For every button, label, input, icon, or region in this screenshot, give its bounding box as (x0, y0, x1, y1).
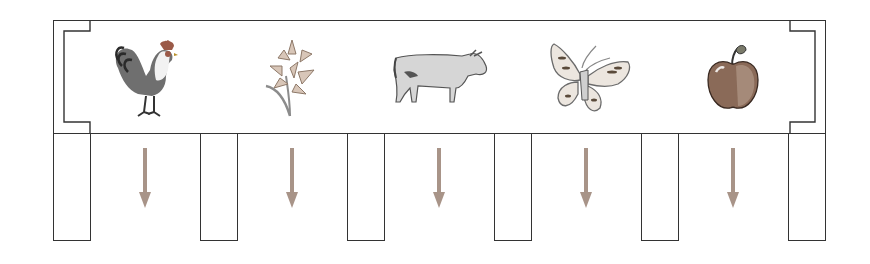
column-5 (641, 133, 679, 241)
down-arrow-icon (139, 148, 151, 208)
divider-line (53, 133, 826, 134)
down-arrow-icon (727, 148, 739, 208)
down-arrow-icon (433, 148, 445, 208)
top-border (53, 20, 826, 21)
lily-icon (262, 36, 322, 118)
apple-icon (706, 44, 760, 112)
right-bracket (788, 20, 828, 135)
cow-icon (390, 48, 490, 106)
column-1 (53, 133, 91, 241)
column-4 (494, 133, 532, 241)
left-bracket (53, 20, 93, 135)
butterfly-icon (548, 38, 634, 116)
rooster-icon (108, 36, 180, 118)
down-arrow-icon (580, 148, 592, 208)
column-6 (788, 133, 826, 241)
column-3 (347, 133, 385, 241)
down-arrow-icon (286, 148, 298, 208)
column-2 (200, 133, 238, 241)
